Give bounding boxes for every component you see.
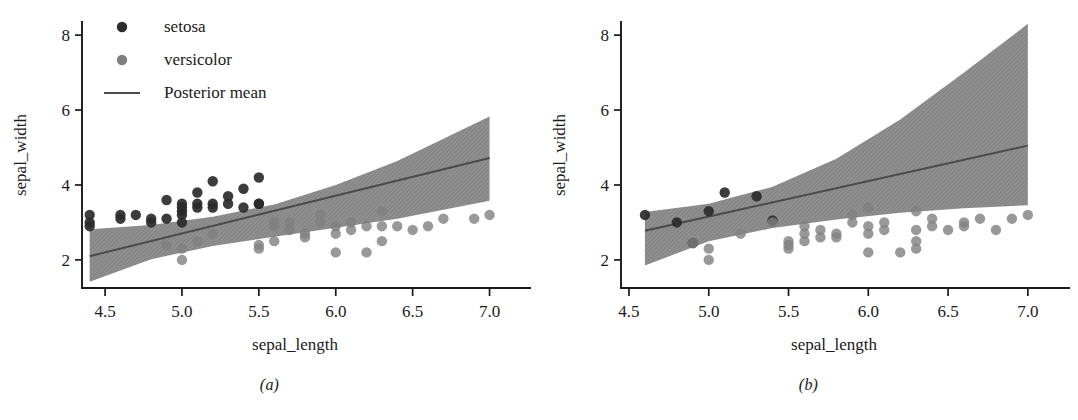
data-point bbox=[751, 191, 761, 201]
x-tick-label: 6.5 bbox=[402, 302, 423, 321]
y-tick-label: 4 bbox=[62, 176, 71, 195]
data-point bbox=[863, 202, 873, 212]
data-point bbox=[377, 206, 387, 216]
data-point bbox=[254, 240, 264, 250]
data-point bbox=[161, 240, 171, 250]
x-tick-label: 7.0 bbox=[479, 302, 500, 321]
data-point bbox=[1023, 210, 1033, 220]
data-point bbox=[131, 210, 141, 220]
data-point bbox=[238, 184, 248, 194]
data-point bbox=[208, 202, 218, 212]
y-axis-title: sepal_width bbox=[11, 113, 30, 196]
data-point bbox=[161, 195, 171, 205]
data-point bbox=[911, 225, 921, 235]
y-tick-label: 2 bbox=[601, 251, 610, 270]
data-point bbox=[640, 210, 650, 220]
data-point bbox=[735, 228, 745, 238]
data-point bbox=[783, 243, 793, 253]
data-point bbox=[377, 236, 387, 246]
x-tick-label: 5.5 bbox=[248, 302, 269, 321]
data-point bbox=[975, 213, 985, 223]
x-tick-label: 5.5 bbox=[778, 302, 799, 321]
data-point bbox=[847, 217, 857, 227]
data-point bbox=[377, 221, 387, 231]
x-axis-title: sepal_length bbox=[791, 335, 877, 354]
data-point bbox=[269, 221, 279, 231]
data-point bbox=[423, 221, 433, 231]
x-axis-title: sepal_length bbox=[252, 335, 338, 354]
x-tick-label: 4.5 bbox=[618, 302, 639, 321]
data-point bbox=[254, 199, 264, 209]
legend-label-Posterior mean: Posterior mean bbox=[164, 83, 267, 102]
legend: setosaversicolorPosterior mean bbox=[104, 17, 267, 102]
data-point bbox=[863, 228, 873, 238]
data-point bbox=[959, 221, 969, 231]
x-tick-label: 6.5 bbox=[937, 302, 958, 321]
data-point bbox=[767, 217, 777, 227]
x-tick-label: 6.0 bbox=[858, 302, 879, 321]
y-tick-label: 4 bbox=[601, 176, 610, 195]
x-tick-label: 5.0 bbox=[171, 302, 192, 321]
y-tick-label: 6 bbox=[62, 101, 71, 120]
data-point bbox=[177, 243, 187, 253]
data-point bbox=[927, 221, 937, 231]
data-point bbox=[879, 225, 889, 235]
data-point bbox=[208, 228, 218, 238]
x-tick-label: 4.5 bbox=[94, 302, 115, 321]
plot-area bbox=[640, 24, 1033, 266]
data-point bbox=[331, 247, 341, 257]
x-tick-label: 7.0 bbox=[1017, 302, 1038, 321]
data-point bbox=[315, 217, 325, 227]
data-point bbox=[84, 221, 94, 231]
data-point bbox=[161, 213, 171, 223]
data-point bbox=[269, 236, 279, 246]
figure-root: 24684.55.05.56.06.57.0sepal_lengthsepal_… bbox=[0, 0, 1078, 420]
data-point bbox=[704, 255, 714, 265]
data-point bbox=[223, 199, 233, 209]
data-point bbox=[361, 247, 371, 257]
panel-a-caption: (a) bbox=[0, 376, 539, 394]
legend-marker-setosa bbox=[117, 22, 127, 32]
data-point bbox=[208, 176, 218, 186]
data-point bbox=[192, 236, 202, 246]
legend-label-versicolor: versicolor bbox=[164, 50, 232, 69]
y-tick-label: 8 bbox=[601, 26, 610, 45]
data-point bbox=[484, 210, 494, 220]
data-point bbox=[911, 243, 921, 253]
data-point bbox=[704, 243, 714, 253]
y-tick-label: 6 bbox=[601, 101, 610, 120]
data-point bbox=[254, 172, 264, 182]
data-point bbox=[815, 232, 825, 242]
data-point bbox=[346, 217, 356, 227]
data-point bbox=[831, 232, 841, 242]
panel-a: 24684.55.05.56.06.57.0sepal_lengthsepal_… bbox=[0, 0, 539, 420]
data-point bbox=[331, 228, 341, 238]
data-point bbox=[895, 247, 905, 257]
data-point bbox=[943, 225, 953, 235]
data-point bbox=[115, 213, 125, 223]
data-point bbox=[438, 213, 448, 223]
data-point bbox=[392, 221, 402, 231]
panel-b-caption: (b) bbox=[539, 376, 1078, 394]
credible-band bbox=[90, 116, 490, 281]
panel-b: 24684.55.05.56.06.57.0sepal_lengthsepal_… bbox=[539, 0, 1078, 420]
data-point bbox=[177, 217, 187, 227]
legend-marker-versicolor bbox=[117, 55, 127, 65]
data-point bbox=[177, 255, 187, 265]
data-point bbox=[192, 187, 202, 197]
data-point bbox=[407, 225, 417, 235]
data-point bbox=[799, 236, 809, 246]
data-point bbox=[704, 206, 714, 216]
data-point bbox=[720, 187, 730, 197]
y-tick-label: 2 bbox=[62, 251, 71, 270]
data-point bbox=[688, 238, 698, 248]
data-point bbox=[300, 232, 310, 242]
data-point bbox=[361, 221, 371, 231]
data-point bbox=[1007, 213, 1017, 223]
plot-area bbox=[84, 116, 494, 281]
data-point bbox=[469, 213, 479, 223]
data-point bbox=[192, 202, 202, 212]
x-tick-label: 6.0 bbox=[325, 302, 346, 321]
data-point bbox=[672, 217, 682, 227]
data-point bbox=[238, 202, 248, 212]
